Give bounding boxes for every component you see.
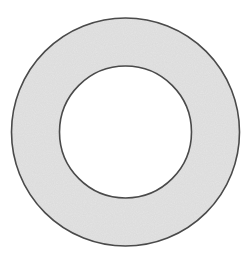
annulus-diagram: [0, 0, 250, 261]
